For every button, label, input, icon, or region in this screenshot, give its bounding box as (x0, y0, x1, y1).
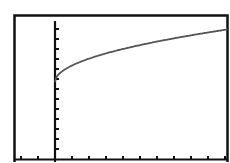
axes (14, 21, 228, 162)
graph-plot (0, 0, 230, 162)
window-frame (15, 16, 228, 163)
function-curve (55, 29, 228, 82)
